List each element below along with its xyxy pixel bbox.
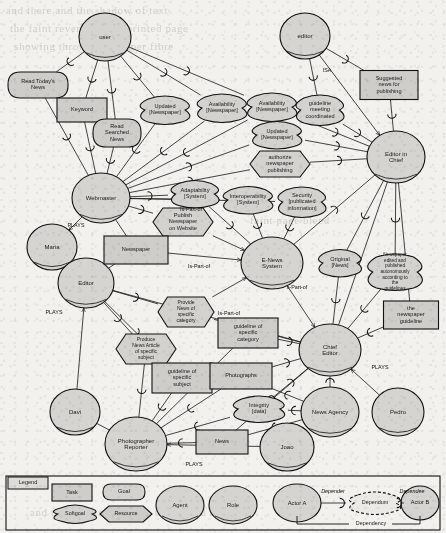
legend-role-shape bbox=[209, 486, 257, 524]
node-the_np_guide[interactable]: thenewspaperguideline bbox=[384, 301, 439, 329]
node-editor_actor[interactable]: Editor bbox=[58, 258, 114, 308]
legend-dependum-shape bbox=[349, 492, 400, 515]
node-guide_categ[interactable]: guideline ofspecificcategory bbox=[218, 318, 278, 348]
relation-label: Is-Part-of bbox=[218, 310, 241, 316]
node-provide_news[interactable]: ProvideNews ofspecificcategory bbox=[158, 297, 214, 327]
node-news_agency[interactable]: News Agency bbox=[301, 387, 359, 437]
node-editor_role_top[interactable]: editor bbox=[280, 13, 330, 59]
node-suggested_news[interactable]: Suggestednews forpublishing bbox=[360, 71, 418, 100]
node-photographs[interactable]: Photographs bbox=[210, 363, 272, 389]
edge-original_news-to-chief_editor bbox=[333, 276, 339, 325]
edge-photographs-to-chief_editor bbox=[272, 359, 301, 367]
edge-editor_in_chief-to-np_autonomous bbox=[395, 183, 396, 255]
edge-produce_news-to-photographer bbox=[139, 364, 145, 417]
node-guideline_meet[interactable]: guidelinemeetingcoordinated bbox=[296, 95, 344, 126]
edge-editor_in_chief-to-original_news bbox=[347, 180, 384, 250]
edge-publish_web-to-enews bbox=[213, 236, 245, 251]
legend-goal-shape bbox=[103, 484, 145, 500]
node-pedro[interactable]: Pedro bbox=[372, 388, 424, 436]
legend-depender-label: Depender bbox=[321, 488, 345, 494]
node-produce_news[interactable]: ProduceNews Articleof specificsubject bbox=[116, 334, 176, 364]
node-integrity[interactable]: Integrity[data] bbox=[233, 396, 284, 423]
node-editor_in_chief[interactable]: Editor inChief bbox=[367, 131, 425, 183]
node-newspaper_res[interactable]: Newspaper bbox=[104, 236, 168, 264]
legend-title-box bbox=[8, 477, 48, 489]
edge-editor_role_top-to-suggested_news bbox=[326, 48, 364, 70]
legend-softgoal-shape bbox=[53, 505, 96, 524]
node-photographer[interactable]: PhotographerReporter bbox=[105, 417, 167, 471]
edge-webmaster-to-adaptability bbox=[130, 195, 168, 197]
edge-webmaster-to-newspaper_res bbox=[116, 220, 127, 236]
node-updated_news_1[interactable]: Updated[Newspaper] bbox=[140, 96, 190, 125]
node-security[interactable]: Security[publicatedinformation] bbox=[278, 187, 326, 218]
legend-dependency-label: Dependency bbox=[356, 520, 387, 526]
node-interoperab[interactable]: Interoperability[System] bbox=[223, 187, 273, 215]
node-original_news[interactable]: Original[News] bbox=[318, 250, 361, 278]
node-authorize_pub[interactable]: authorizenewspaperpublishing bbox=[250, 151, 310, 177]
edge-enews-to-chief_editor bbox=[287, 286, 315, 328]
node-davi[interactable]: Davi bbox=[50, 389, 100, 435]
edge-pedro-to-chief_editor bbox=[351, 369, 380, 395]
node-news_res[interactable]: News bbox=[196, 430, 248, 454]
edge-editor_actor-to-newspaper_res bbox=[109, 264, 115, 268]
node-webmaster[interactable]: Webmaster bbox=[72, 173, 130, 223]
edge-editor_actor-to-produce_news bbox=[104, 302, 133, 334]
node-joao[interactable]: Joao bbox=[260, 423, 314, 471]
node-np_autonomous[interactable]: Newspaperedited andpublishedautonomously… bbox=[368, 252, 423, 291]
node-chief_editor[interactable]: ChiefEditor bbox=[299, 324, 361, 376]
legend-layer: LegendTaskSoftgoalGoalResourceAgentRoleA… bbox=[6, 476, 440, 530]
relation-label: PLAYS bbox=[46, 309, 63, 315]
edge-webmaster-to-publish_web bbox=[128, 206, 153, 213]
edge-provide_news-to-enews bbox=[212, 278, 246, 297]
relation-label: Is-Part-of bbox=[188, 263, 211, 269]
relation-label: ISA bbox=[323, 67, 332, 73]
edge-np_autonomous-to-chief_editor bbox=[348, 289, 381, 329]
node-read_today[interactable]: Read Today'sNews bbox=[8, 72, 68, 98]
relation-label: PLAYS bbox=[186, 461, 203, 467]
edge-suggested_news-to-editor_in_chief bbox=[390, 100, 393, 132]
node-publish_web[interactable]: PublishNewspaperon Website bbox=[153, 208, 213, 236]
node-adaptability[interactable]: Adaptability[System] bbox=[171, 181, 219, 209]
node-layer: usereditorWebmasterEditor inChiefMariaEd… bbox=[8, 13, 439, 471]
relation-label: PLAYS bbox=[372, 364, 389, 370]
edge-guide_subject-to-photographer bbox=[152, 393, 171, 421]
legend-task-shape bbox=[52, 484, 92, 501]
istar-diagram-svg: usereditorWebmasterEditor inChiefMariaEd… bbox=[0, 0, 446, 533]
edge-davi-to-photographer bbox=[97, 423, 110, 430]
edge-guideline_meet-to-editor_in_chief bbox=[343, 124, 372, 142]
legend-actor-b-shape bbox=[401, 486, 439, 520]
node-guide_subject[interactable]: guideline ofspecificsubject bbox=[152, 363, 212, 393]
legend-agent-shape bbox=[156, 486, 204, 524]
edge-editor_actor-to-provide_news bbox=[113, 291, 158, 304]
node-avail_news_2[interactable]: Availability[Newspaper] bbox=[247, 93, 297, 122]
node-user[interactable]: user bbox=[79, 13, 131, 61]
edge-authorize_pub-to-editor_in_chief bbox=[310, 159, 367, 162]
diagram-canvas: and there and the shadow of text the fai… bbox=[0, 0, 446, 533]
edge-user-to-read_searched bbox=[108, 61, 115, 119]
edge-user-to-read_today bbox=[56, 52, 84, 72]
edge-integrity-to-chief_editor bbox=[273, 368, 308, 397]
node-updated_news_2[interactable]: Updated[Newspaper] bbox=[252, 122, 302, 150]
edge-news_agency-to-integrity bbox=[288, 410, 301, 411]
node-keyword[interactable]: Keyword bbox=[57, 98, 107, 122]
edge-editor_role_top-to-guideline_meet bbox=[310, 59, 318, 96]
edge-davi-to-editor_actor bbox=[77, 308, 84, 389]
legend-resource-shape bbox=[100, 506, 152, 522]
edge-user-to-avail_news_2 bbox=[129, 47, 244, 95]
edge-user-to-updated_news_1 bbox=[121, 56, 155, 97]
node-avail_news_1[interactable]: Availability[Newspaper] bbox=[197, 94, 247, 123]
edge-webmaster-to-maria bbox=[69, 217, 82, 230]
edge-news_res-to-photographer bbox=[167, 443, 196, 444]
edge-read_searched-to-webmaster bbox=[107, 147, 114, 174]
node-enews[interactable]: E-NewsSystem bbox=[241, 237, 303, 289]
node-read_searched[interactable]: ReadSearchedNews bbox=[93, 119, 141, 147]
edge-newspaper_res-to-enews bbox=[168, 253, 241, 260]
